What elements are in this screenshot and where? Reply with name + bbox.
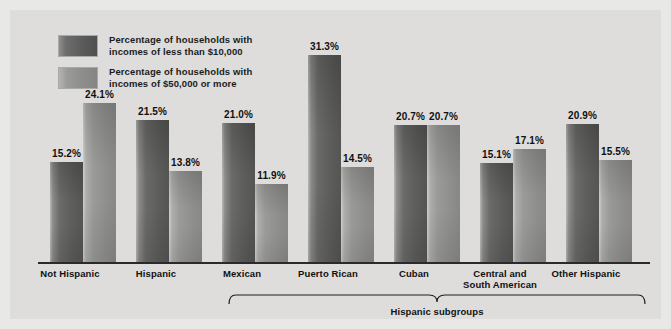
bar-hispanic-series1: 21.5%	[136, 120, 169, 263]
bar-wrap-hispanic-series2: 13.8%	[169, 30, 202, 263]
x-axis-label-other-hispanic: Other Hispanic	[536, 268, 636, 279]
bar-value-central-south-american-series1: 15.1%	[482, 149, 511, 160]
x-axis-label-hispanic: Hispanic	[106, 268, 206, 279]
chart-container: Percentage of households with incomes of…	[0, 0, 671, 329]
chart-panel: Percentage of households with incomes of…	[10, 10, 661, 319]
x-axis-label-central-south-american-line1: Central and	[473, 268, 526, 279]
bar-wrap-other-hispanic-series1: 20.9%	[566, 30, 599, 263]
x-axis-label-not-hispanic: Not Hispanic	[20, 268, 120, 279]
bar-wrap-hispanic-series1: 21.5%	[136, 30, 169, 263]
bar-value-not-hispanic-series1: 15.2%	[52, 148, 81, 159]
bar-group-mexican: 21.0% 11.9%	[222, 30, 288, 263]
brace-icon	[228, 293, 646, 305]
x-axis-label-mexican-line1: Mexican	[223, 268, 261, 279]
bar-not-hispanic-series2: 24.1%	[83, 103, 116, 263]
bar-group-puerto-rican: 31.3% 14.5%	[308, 30, 374, 263]
bar-mexican-series1: 21.0%	[222, 123, 255, 263]
bar-group-hispanic: 21.5% 13.8%	[136, 30, 202, 263]
x-axis-label-cuban-line1: Cuban	[399, 268, 429, 279]
x-axis-label-not-hispanic-line1: Not Hispanic	[40, 268, 99, 279]
bar-value-other-hispanic-series2: 15.5%	[601, 146, 630, 157]
x-axis-label-puerto-rican: Puerto Rican	[278, 268, 378, 279]
bar-group-central-south-american: 15.1% 17.1%	[480, 30, 546, 263]
bar-value-not-hispanic-series2: 24.1%	[85, 89, 114, 100]
bar-wrap-not-hispanic-series2: 24.1%	[83, 30, 116, 263]
bar-value-cuban-series2: 20.7%	[429, 111, 458, 122]
bar-wrap-cuban-series1: 20.7%	[394, 30, 427, 263]
bar-wrap-puerto-rican-series1: 31.3%	[308, 30, 341, 263]
bar-value-cuban-series1: 20.7%	[396, 111, 425, 122]
hispanic-subgroups-label: Hispanic subgroups	[228, 306, 646, 317]
bar-wrap-mexican-series2: 11.9%	[255, 30, 288, 263]
bar-group-other-hispanic: 20.9% 15.5%	[566, 30, 632, 263]
bar-value-mexican-series2: 11.9%	[257, 170, 285, 181]
bar-other-hispanic-series1: 20.9%	[566, 124, 599, 263]
x-axis-label-other-hispanic-line1: Other Hispanic	[552, 268, 621, 279]
hispanic-subgroups-brace	[228, 293, 646, 305]
bar-wrap-central-south-american-series2: 17.1%	[513, 30, 546, 263]
x-axis-label-puerto-rican-line1: Puerto Rican	[298, 268, 358, 279]
bar-cuban-series2: 20.7%	[427, 125, 460, 263]
x-axis-label-mexican: Mexican	[192, 268, 292, 279]
x-axis-line	[38, 262, 650, 264]
bar-hispanic-series2: 13.8%	[169, 171, 202, 263]
bar-wrap-not-hispanic-series1: 15.2%	[50, 30, 83, 263]
bar-wrap-central-south-american-series1: 15.1%	[480, 30, 513, 263]
bar-puerto-rican-series1: 31.3%	[308, 55, 341, 263]
bar-not-hispanic-series1: 15.2%	[50, 162, 83, 263]
bar-value-hispanic-series1: 21.5%	[138, 106, 167, 117]
bar-wrap-other-hispanic-series2: 15.5%	[599, 30, 632, 263]
bar-value-puerto-rican-series2: 14.5%	[343, 153, 372, 164]
bar-value-central-south-american-series2: 17.1%	[515, 135, 544, 146]
bar-cuban-series1: 20.7%	[394, 125, 427, 263]
plot-area: 15.2% 24.1% 21.5% 13.8%	[38, 30, 650, 263]
bar-wrap-cuban-series2: 20.7%	[427, 30, 460, 263]
x-axis-label-cuban: Cuban	[364, 268, 464, 279]
bar-wrap-puerto-rican-series2: 14.5%	[341, 30, 374, 263]
bar-central-south-american-series2: 17.1%	[513, 149, 546, 263]
bar-wrap-mexican-series1: 21.0%	[222, 30, 255, 263]
bar-value-other-hispanic-series1: 20.9%	[568, 110, 597, 121]
bar-mexican-series2: 11.9%	[255, 184, 288, 263]
bar-central-south-american-series1: 15.1%	[480, 163, 513, 263]
bar-group-cuban: 20.7% 20.7%	[394, 30, 460, 263]
bar-group-not-hispanic: 15.2% 24.1%	[50, 30, 116, 263]
bar-puerto-rican-series2: 14.5%	[341, 167, 374, 263]
x-axis-label-central-south-american-line2: South American	[463, 279, 537, 290]
bar-value-puerto-rican-series1: 31.3%	[310, 41, 339, 52]
x-axis-label-hispanic-line1: Hispanic	[136, 268, 176, 279]
bar-value-hispanic-series2: 13.8%	[171, 157, 200, 168]
bar-other-hispanic-series2: 15.5%	[599, 160, 632, 263]
x-axis-label-central-south-american: Central and South American	[450, 268, 550, 290]
bar-value-mexican-series1: 21.0%	[224, 109, 253, 120]
